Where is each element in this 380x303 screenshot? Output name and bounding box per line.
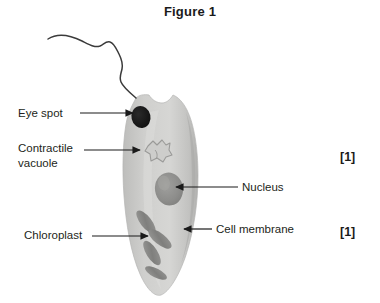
mark-allocation-2: [1] [340,225,355,239]
mark-allocation-1: [1] [340,150,355,164]
label-contractile-vacuole-line2: vacuole [18,157,58,169]
label-contractile-vacuole: Contractile vacuole [18,141,108,171]
flagellum [48,35,136,98]
label-cell-membrane: Cell membrane [216,222,294,237]
figure-container: Figure 1 [0,0,380,303]
label-chloroplast: Chloroplast [24,228,82,243]
label-nucleus: Nucleus [242,180,284,195]
label-contractile-vacuole-line1: Contractile [18,142,73,154]
label-eye-spot: Eye spot [18,106,63,121]
